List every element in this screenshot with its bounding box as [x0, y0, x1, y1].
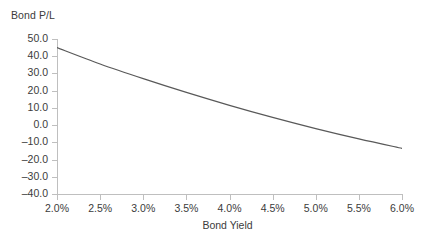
- y-tick-label: –10.0: [22, 136, 48, 147]
- y-tick-label: 30.0: [28, 67, 48, 78]
- y-tick-label: 20.0: [28, 85, 48, 96]
- x-tick-mark: [230, 195, 231, 200]
- x-tick-label: 2.0%: [37, 203, 77, 214]
- x-tick-mark: [186, 195, 187, 200]
- x-axis-title: Bond Yield: [0, 219, 425, 231]
- x-tick-mark: [359, 195, 360, 200]
- x-tick-label: 3.0%: [123, 203, 163, 214]
- x-tick-label: 4.0%: [210, 203, 250, 214]
- x-tick-mark: [100, 195, 101, 200]
- y-tick-label: 40.0: [28, 50, 48, 61]
- x-tick-label: 5.0%: [296, 203, 336, 214]
- y-tick-label: –30.0: [22, 171, 48, 182]
- y-tick-label: 50.0: [28, 33, 48, 44]
- y-tick-label: 0.0: [33, 119, 48, 130]
- x-tick-mark: [402, 195, 403, 200]
- y-tick-label: –40.0: [22, 188, 48, 199]
- x-tick-label: 4.5%: [253, 203, 293, 214]
- bond-pl-chart: Bond P/L 50.040.030.020.010.00.0–10.0–20…: [0, 0, 425, 238]
- x-tick-label: 5.5%: [339, 203, 379, 214]
- bond-pl-line-series: [57, 39, 402, 195]
- x-tick-mark: [273, 195, 274, 200]
- x-tick-label: 2.5%: [80, 203, 120, 214]
- x-tick-label: 3.5%: [166, 203, 206, 214]
- x-tick-mark: [316, 195, 317, 200]
- x-tick-mark: [57, 195, 58, 200]
- x-tick-label: 6.0%: [382, 203, 422, 214]
- bond-pl-curve: [57, 48, 402, 149]
- y-tick-label: –20.0: [22, 154, 48, 165]
- y-axis-title: Bond P/L: [11, 9, 55, 21]
- plot-area: [57, 39, 402, 194]
- x-tick-mark: [143, 195, 144, 200]
- x-axis-title-label: Bond Yield: [202, 219, 252, 231]
- y-tick-label: 10.0: [28, 102, 48, 113]
